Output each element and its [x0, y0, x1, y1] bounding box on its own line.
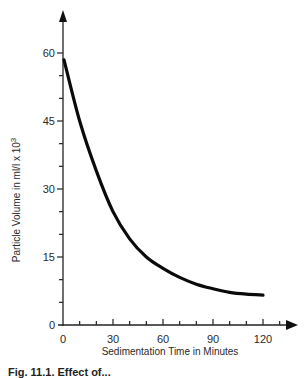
- y-tick-label: 0: [49, 319, 55, 331]
- y-tick-label: 15: [43, 251, 55, 263]
- x-tick-label: 30: [107, 333, 119, 345]
- x-axis: 0306090120: [58, 319, 298, 345]
- y-axis-title: Particle Volume in ml/l x 103: [9, 137, 22, 262]
- figure-caption: Fig. 11.1. Effect of...: [8, 366, 111, 378]
- y-tick-label: 45: [43, 115, 55, 127]
- y-axis-arrow-icon: [59, 10, 67, 22]
- x-tick-label: 120: [254, 333, 272, 345]
- y-tick-label: 30: [43, 183, 55, 195]
- x-tick-label: 0: [60, 333, 66, 345]
- data-line: [64, 60, 263, 295]
- x-tick-label: 90: [207, 333, 219, 345]
- x-axis-arrow-icon: [286, 320, 298, 330]
- y-axis: 015304560: [43, 10, 67, 331]
- x-axis-title: Sedimentation Time in Minutes: [102, 346, 239, 357]
- x-tick-label: 60: [157, 333, 169, 345]
- y-tick-label: 60: [43, 47, 55, 59]
